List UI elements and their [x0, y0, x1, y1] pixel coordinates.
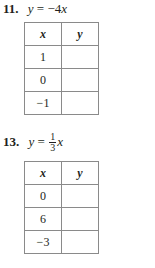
cell-x: −3 — [25, 231, 62, 254]
variable: x — [61, 1, 67, 16]
equals-sign: = — [37, 1, 44, 16]
xy-table-13: x y 0 6 −3 — [24, 161, 99, 254]
cell-y[interactable] — [62, 231, 99, 254]
table-row: 0 — [25, 185, 99, 208]
equation-lhs: y — [28, 1, 34, 16]
xy-table-11: x y 1 0 −1 — [24, 22, 99, 115]
cell-x: 1 — [25, 46, 62, 69]
table-row: 1 — [25, 46, 99, 69]
cell-y[interactable] — [62, 185, 99, 208]
table-row: −3 — [25, 231, 99, 254]
header-y: y — [62, 162, 99, 185]
header-x: x — [25, 162, 62, 185]
problem-13-title: 13. y = 1 3 x — [3, 133, 63, 154]
table-header-row: x y — [25, 23, 99, 46]
cell-y[interactable] — [62, 92, 99, 115]
table-row: 6 — [25, 208, 99, 231]
cell-x: 0 — [25, 69, 62, 92]
cell-x: 0 — [25, 185, 62, 208]
problem-number: 11. — [3, 1, 19, 16]
variable: x — [57, 134, 63, 149]
cell-x: 6 — [25, 208, 62, 231]
fraction: 1 3 — [49, 132, 56, 153]
equation-lhs: y — [29, 134, 35, 149]
header-y: y — [62, 23, 99, 46]
equals-sign: = — [38, 134, 45, 149]
table-header-row: x y — [25, 162, 99, 185]
coefficient: −4 — [47, 1, 61, 16]
problem-number: 13. — [3, 134, 19, 149]
header-x: x — [25, 23, 62, 46]
cell-x: −1 — [25, 92, 62, 115]
cell-y[interactable] — [62, 46, 99, 69]
problem-11-title: 11. y = −4x — [3, 2, 67, 15]
table-row: −1 — [25, 92, 99, 115]
cell-y[interactable] — [62, 208, 99, 231]
table-row: 0 — [25, 69, 99, 92]
cell-y[interactable] — [62, 69, 99, 92]
fraction-denominator: 3 — [49, 143, 56, 153]
